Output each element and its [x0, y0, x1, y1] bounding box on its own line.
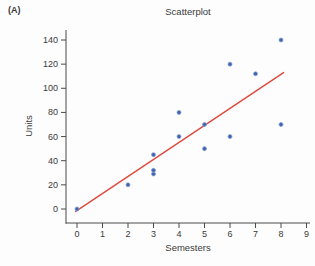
y-tick-label: 140 — [43, 35, 58, 45]
data-point — [203, 123, 207, 127]
chart-title: Scatterplot — [165, 6, 211, 17]
data-point — [279, 123, 283, 127]
data-point — [228, 62, 232, 66]
data-point — [279, 38, 283, 42]
data-point — [177, 110, 181, 114]
y-tick-label: 100 — [43, 83, 58, 93]
y-tick-label: 80 — [48, 107, 58, 117]
x-tick-label: 3 — [151, 229, 156, 239]
y-tick-label: 40 — [48, 156, 58, 166]
x-tick-label: 5 — [202, 229, 207, 239]
data-point — [152, 153, 156, 157]
figure-panel-label: (A) — [8, 5, 21, 15]
x-tick-label: 6 — [227, 229, 232, 239]
y-tick-label: 0 — [53, 204, 58, 214]
data-point — [177, 135, 181, 139]
data-point — [126, 183, 130, 187]
data-point — [152, 168, 156, 172]
x-tick-label: 2 — [125, 229, 130, 239]
y-tick-label: 120 — [43, 59, 58, 69]
trend-line — [76, 73, 284, 212]
data-point — [203, 147, 207, 151]
x-tick-label: 4 — [176, 229, 181, 239]
y-tick-label: 20 — [48, 180, 58, 190]
scatterplot-figure: (A) Scatterplot Units Semesters 02040608… — [0, 0, 315, 266]
x-axis-label: Semesters — [165, 242, 211, 253]
y-tick-label: 60 — [48, 132, 58, 142]
x-tick-label: 9 — [304, 229, 309, 239]
data-point — [228, 135, 232, 139]
y-axis-label: Units — [23, 115, 34, 137]
x-tick-label: 7 — [253, 229, 258, 239]
data-point — [254, 72, 258, 76]
x-tick-label: 0 — [74, 229, 79, 239]
x-tick-label: 8 — [278, 229, 283, 239]
data-point — [75, 207, 79, 211]
plot-area: 0204060801001201400123456789 — [43, 30, 310, 239]
chart-canvas: (A) Scatterplot Units Semesters 02040608… — [0, 0, 315, 266]
x-tick-label: 1 — [100, 229, 105, 239]
